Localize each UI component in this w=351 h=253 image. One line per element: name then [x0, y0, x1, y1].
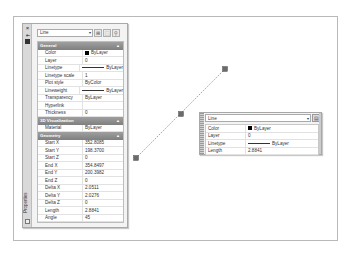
- property-value-text: 45: [85, 215, 90, 220]
- auto-hide-icon[interactable]: ⇤: [24, 32, 31, 38]
- property-value[interactable]: 2.8841: [83, 207, 123, 214]
- collapse-chevron-icon[interactable]: ▲: [116, 118, 120, 123]
- property-row-layer[interactable]: Layer0: [38, 57, 123, 65]
- close-icon[interactable]: ×: [24, 25, 31, 31]
- object-type-dropdown[interactable]: Line ▾: [37, 29, 93, 37]
- property-row-angle[interactable]: Angle45: [38, 215, 123, 223]
- section-header-3d-visualization[interactable]: 3D Visualization▲: [38, 117, 123, 125]
- property-name: Angle: [38, 215, 83, 222]
- property-row-layer[interactable]: Layer0: [206, 133, 318, 141]
- palette-settings-icon[interactable]: [25, 219, 30, 224]
- property-value[interactable]: 1: [83, 72, 123, 79]
- object-type-label: Line: [40, 30, 49, 35]
- section-label: General: [40, 43, 56, 48]
- property-value[interactable]: 354.8497: [83, 162, 123, 169]
- property-row-delta-x[interactable]: Delta X2.0511: [38, 185, 123, 193]
- property-row-linetype-scale[interactable]: Linetype scale1: [38, 72, 123, 80]
- property-value[interactable]: 0: [83, 200, 123, 207]
- property-row-length[interactable]: Length2.8841: [206, 148, 318, 156]
- property-row-linetype[interactable]: LinetypeByLayer: [206, 140, 318, 148]
- property-value[interactable]: 45: [83, 215, 123, 222]
- property-value[interactable]: 200.3982: [83, 170, 123, 177]
- qp-scrollbar[interactable]: [319, 113, 321, 154]
- quick-select-icon[interactable]: ⚲: [112, 29, 120, 37]
- property-name: Start Z: [38, 155, 83, 162]
- property-value[interactable]: ByLayer: [246, 125, 318, 132]
- property-value[interactable]: 2.8841: [246, 148, 318, 155]
- collapse-chevron-icon[interactable]: ▲: [116, 133, 120, 138]
- property-row-thickness[interactable]: Thickness0: [38, 110, 123, 118]
- property-name: End Y: [38, 170, 83, 177]
- property-value[interactable]: ByLayer: [83, 125, 123, 132]
- palette-menu-icon[interactable]: [24, 39, 31, 45]
- property-value[interactable]: ByLayer: [80, 65, 123, 72]
- property-name: Length: [38, 207, 83, 214]
- chevron-down-icon: ▾: [307, 116, 310, 121]
- property-row-end-z[interactable]: End Z0: [38, 177, 123, 185]
- property-value[interactable]: 0: [83, 57, 123, 64]
- qp-object-type-dropdown[interactable]: Line ▾: [205, 114, 311, 122]
- property-value[interactable]: ByLayer: [83, 95, 123, 102]
- property-row-end-x[interactable]: End X354.8497: [38, 162, 123, 170]
- property-value[interactable]: ByLayer: [80, 87, 123, 94]
- property-value-text: ByLayer: [85, 95, 102, 100]
- linetype-preview-icon: [248, 143, 270, 144]
- property-row-linetype[interactable]: LinetypeByLayer: [38, 65, 123, 73]
- property-row-hyperlink[interactable]: Hyperlink: [38, 102, 123, 110]
- property-value[interactable]: 0: [83, 177, 123, 184]
- property-value[interactable]: 0: [246, 133, 318, 140]
- property-value-text: ByColor: [85, 80, 101, 85]
- properties-palette: × ⇤ Properties Line ▾ ⊞ ⬚ ⚲ General▲Colo…: [22, 23, 128, 228]
- property-value[interactable]: 0: [83, 155, 123, 162]
- property-value-text: 0: [85, 178, 88, 183]
- property-value[interactable]: ByLayer: [246, 140, 318, 147]
- chevron-down-icon: ▾: [89, 30, 92, 35]
- grip-midpoint-icon[interactable]: [179, 112, 184, 117]
- select-objects-icon[interactable]: ⬚: [103, 29, 111, 37]
- property-row-material[interactable]: MaterialByLayer: [38, 125, 123, 133]
- property-row-end-y[interactable]: End Y200.3982: [38, 170, 123, 178]
- property-value[interactable]: 2.0511: [83, 185, 123, 192]
- palette-title-strip[interactable]: × ⇤ Properties: [23, 24, 32, 227]
- property-value-text: 354.8497: [85, 163, 104, 168]
- property-row-start-x[interactable]: Start X352.8085: [38, 140, 123, 148]
- property-row-color[interactable]: ColorByLayer: [38, 50, 123, 58]
- property-value-text: 2.0511: [85, 185, 99, 190]
- property-name: Linetype: [206, 140, 246, 147]
- property-value[interactable]: 198.3700: [83, 147, 123, 154]
- property-row-lineweight[interactable]: LineweightByLayer: [38, 87, 123, 95]
- property-value-text: ByLayer: [91, 50, 108, 55]
- property-value-text: 0: [85, 155, 88, 160]
- property-value[interactable]: 352.8085: [83, 140, 123, 147]
- property-value-text: 2.8841: [248, 148, 262, 153]
- section-header-geometry[interactable]: Geometry▲: [38, 132, 123, 140]
- property-row-start-z[interactable]: Start Z0: [38, 155, 123, 163]
- grip-end-icon[interactable]: [223, 67, 228, 72]
- property-value[interactable]: ByLayer: [83, 50, 123, 57]
- drag-handle[interactable]: [200, 113, 204, 154]
- property-value[interactable]: [83, 102, 123, 109]
- property-row-length[interactable]: Length2.8841: [38, 207, 123, 215]
- color-swatch-icon: [248, 126, 252, 130]
- grip-start-icon[interactable]: [134, 156, 139, 161]
- property-value-text: 2.8841: [85, 208, 99, 213]
- toggle-pickadd-icon[interactable]: ⊞: [94, 29, 102, 37]
- property-name: Linetype scale: [38, 72, 83, 79]
- property-row-start-y[interactable]: Start Y198.3700: [38, 147, 123, 155]
- property-row-delta-z[interactable]: Delta Z0: [38, 200, 123, 208]
- section-header-general[interactable]: General▲: [38, 42, 123, 50]
- property-name: Delta Y: [38, 192, 83, 199]
- color-swatch-icon: [85, 51, 89, 55]
- property-value[interactable]: 0: [83, 110, 123, 117]
- property-name: Delta X: [38, 185, 83, 192]
- properties-grid: General▲ColorByLayerLayer0LinetypeByLaye…: [37, 41, 124, 223]
- property-name: Lineweight: [38, 87, 80, 94]
- linetype-preview-icon: [82, 67, 104, 68]
- property-row-plot-style[interactable]: Plot styleByColor: [38, 80, 123, 88]
- property-value[interactable]: 2.0276: [83, 192, 123, 199]
- collapse-chevron-icon[interactable]: ▲: [116, 43, 120, 48]
- property-value[interactable]: ByColor: [83, 80, 123, 87]
- property-row-color[interactable]: ColorByLayer: [206, 125, 318, 133]
- property-row-transparency[interactable]: TransparencyByLayer: [38, 95, 123, 103]
- property-row-delta-y[interactable]: Delta Y2.0276: [38, 192, 123, 200]
